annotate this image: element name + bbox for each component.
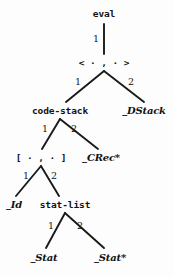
tree-node-pair: < · , · > [79, 58, 130, 68]
tree-edge-pair-codestack [66, 71, 104, 102]
tree-node-id: _Id [6, 200, 22, 210]
tree-node-eval: eval [93, 9, 115, 19]
edge-label-codestack-crec: 2 [71, 124, 77, 134]
edge-label-pair-dstack: 2 [128, 77, 134, 87]
tree-node-crec: _CRec* [82, 153, 120, 163]
edge-label-statlist-stat: 1 [48, 221, 54, 231]
syntax-tree-diagram: eval< · , · >code-stack_DStack[ · , · ]_… [0, 0, 174, 277]
edge-label-brackets-statlist: 2 [51, 171, 57, 181]
tree-edge-pair-dstack [104, 71, 144, 102]
edge-label-eval-pair: 1 [93, 34, 99, 44]
tree-node-statstar: _Stat* [94, 253, 126, 263]
tree-node-brackets: [ · , · ] [16, 153, 67, 163]
tree-node-stat: _Stat [31, 253, 58, 263]
tree-edge-codestack-crec [60, 119, 98, 149]
tree-node-dstack: _DStack [122, 106, 166, 116]
tree-edge-statlist-statstar [65, 213, 104, 248]
tree-edges-layer [0, 0, 174, 277]
edge-label-statlist-statstar: 2 [77, 221, 83, 231]
tree-node-statlist: stat-list [40, 200, 91, 210]
tree-node-codestack: code-stack [32, 106, 88, 116]
edge-label-codestack-brackets: 1 [42, 124, 48, 134]
edge-label-brackets-id: 1 [23, 171, 29, 181]
edge-label-pair-codestack: 1 [75, 77, 81, 87]
